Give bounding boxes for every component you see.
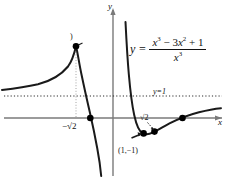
y-axis-label: y [108,2,112,11]
equation-denominator: x3 [171,50,185,63]
minimum-point-label: (1,−1) [118,147,138,155]
curve-left-branch [2,46,101,176]
x-tick-label-sqrt2: √2 [140,114,148,122]
equation-lhs: y = [130,43,146,55]
equation-annotation: y = x3 − 3x2 + 1 x3 [130,36,206,62]
graph-canvas [0,0,230,184]
graph-figure: y x y=1 −√2 √2 (1,−1) ) y = x3 − 3x2 + 1… [0,0,230,184]
maximum-point-label: ) [70,33,73,41]
point-local-minimum [140,130,147,137]
equation-numerator: x3 − 3x2 + 1 [149,36,206,49]
equation-fraction: x3 − 3x2 + 1 x3 [149,36,206,62]
leader-arrow-peak [78,43,82,45]
asymptote-label: y=1 [153,88,166,96]
point-x-intercept-right [179,115,186,122]
point-x-intercept-left [87,115,94,122]
axes-group [4,8,222,176]
x-tick-label-neg-sqrt2: −√2 [62,122,77,131]
x-axis-label: x [218,118,222,127]
point-local-maximum [73,43,80,50]
